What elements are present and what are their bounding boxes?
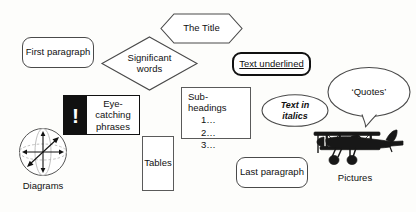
ellipse-shape	[261, 94, 329, 127]
node-eye-catching-phrases[interactable]: ! Eye- catching phrases	[63, 95, 140, 135]
node-first-paragraph-label: First paragraph	[26, 47, 90, 58]
sub-headings-item-3: 3…	[188, 139, 244, 152]
sphere-with-axes-icon	[18, 127, 68, 177]
eye-catching-line3: phrases	[96, 121, 130, 132]
node-tables-label: Tables	[144, 158, 171, 169]
node-quotes[interactable]: ‘Quotes’	[326, 66, 412, 128]
node-eye-catching-phrases-label: Eye- catching phrases	[87, 96, 139, 134]
sub-headings-item-2: 2…	[188, 127, 244, 140]
node-last-paragraph[interactable]: Last paragraph	[236, 157, 308, 188]
node-first-paragraph[interactable]: First paragraph	[22, 37, 94, 68]
node-pictures-figure[interactable]	[306, 126, 406, 174]
node-significant-words[interactable]: Significant words	[101, 36, 198, 91]
biplane-silhouette-icon	[306, 126, 406, 174]
sub-headings-item-1: 1…	[188, 114, 244, 127]
node-text-in-italics[interactable]: Text in italics	[261, 94, 329, 127]
eye-catching-line2: catching	[95, 109, 130, 120]
diamond-shape	[101, 36, 198, 91]
node-sub-headings[interactable]: Sub-headings 1… 2… 3…	[181, 87, 251, 139]
caption-diagrams: Diagrams	[6, 180, 80, 191]
node-diagrams-figure[interactable]	[18, 127, 68, 177]
sub-headings-title: Sub-headings	[188, 92, 244, 113]
node-tables[interactable]: Tables	[142, 136, 174, 191]
speech-balloon-shape	[326, 66, 412, 128]
node-last-paragraph-label: Last paragraph	[240, 167, 304, 178]
eye-catching-line1: Eye-	[103, 98, 123, 109]
diagram-canvas: First paragraph The Title Significant wo…	[0, 0, 416, 212]
node-text-underlined-label: Text underlined	[239, 59, 303, 70]
caption-pictures: Pictures	[312, 172, 398, 183]
node-text-underlined[interactable]: Text underlined	[232, 52, 311, 76]
